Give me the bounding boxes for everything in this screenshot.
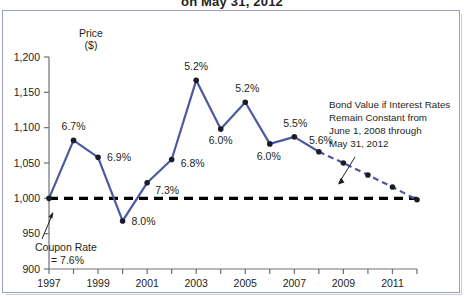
data-point-label: 6.8% xyxy=(181,157,205,169)
y-tick-label: 1,200 xyxy=(14,51,40,63)
y-tick-label: 1,150 xyxy=(14,86,40,98)
y-axis-title-line2: ($) xyxy=(85,39,98,51)
y-tick-label: 1,100 xyxy=(14,121,40,133)
y-axis-title-line1: Price xyxy=(79,27,103,39)
x-axis-ticks: 19971999200120032005200720092011 xyxy=(37,269,417,289)
projection-note-line3: June 1, 2008 through xyxy=(329,125,422,136)
projection-note-line1: Bond Value if Interest Rates xyxy=(329,99,450,110)
y-tick-label: 1,000 xyxy=(14,192,40,204)
data-point-label: 5.2% xyxy=(235,82,259,94)
data-point-marker xyxy=(292,134,298,140)
data-point-label: 5.2% xyxy=(184,60,208,72)
data-point-label: 5.5% xyxy=(283,117,307,129)
data-point-label: 6.9% xyxy=(107,151,131,163)
clipped-figure-title: on May 31, 2012 xyxy=(0,0,464,10)
projection-note-annotation: Bond Value if Interest Rates Remain Cons… xyxy=(329,99,450,185)
y-tick-label: 1,050 xyxy=(14,157,40,169)
data-point-marker xyxy=(414,197,420,203)
x-tick-label: 2001 xyxy=(135,277,159,289)
coupon-rate-annotation-line1: Coupon Rate xyxy=(35,241,97,253)
coupon-rate-annotation-line2: = 7.6% xyxy=(51,254,84,266)
figure-frame: 1,2001,1501,1001,0501,000950900 19971999… xyxy=(2,10,460,293)
data-point-marker xyxy=(242,99,248,105)
x-tick-label: 2011 xyxy=(381,277,404,289)
data-point-label: 6.0% xyxy=(209,134,233,146)
bond-value-line-chart: 1,2001,1501,1001,0501,000950900 19971999… xyxy=(3,11,458,291)
data-point-marker xyxy=(341,160,347,166)
data-point-marker xyxy=(365,172,371,178)
projection-note-line2: Remain Constant from xyxy=(329,112,427,123)
x-tick-label: 2007 xyxy=(283,277,307,289)
x-tick-label: 1997 xyxy=(37,277,61,289)
data-point-marker xyxy=(193,78,199,84)
data-point-marker xyxy=(95,155,101,161)
data-point-marker xyxy=(218,126,224,132)
data-point-label: 6.7% xyxy=(62,120,86,132)
x-tick-label: 2005 xyxy=(234,277,258,289)
data-point-marker xyxy=(46,196,52,202)
data-point-labels: 6.7%6.9%8.0%7.3%6.8%5.2%6.0%5.2%6.0%5.5%… xyxy=(62,60,333,227)
data-point-marker xyxy=(120,218,126,224)
projection-series-markers xyxy=(341,160,420,202)
data-point-marker xyxy=(390,184,396,190)
coupon-rate-annotation: Coupon Rate = 7.6% xyxy=(35,212,97,266)
data-point-label: 6.0% xyxy=(257,150,281,162)
x-tick-label: 2009 xyxy=(332,277,356,289)
data-point-marker xyxy=(267,141,273,147)
x-tick-label: 1999 xyxy=(86,277,110,289)
y-tick-label: 900 xyxy=(22,263,40,275)
data-point-marker xyxy=(71,138,77,144)
data-point-marker xyxy=(169,157,175,163)
projection-note-line4: May 31, 2012 xyxy=(329,138,388,149)
data-point-marker xyxy=(144,180,150,186)
data-point-marker xyxy=(316,149,322,155)
data-point-label: 7.3% xyxy=(155,184,179,196)
data-point-label: 8.0% xyxy=(132,215,156,227)
x-tick-label: 2003 xyxy=(185,277,209,289)
y-tick-label: 950 xyxy=(22,227,40,239)
